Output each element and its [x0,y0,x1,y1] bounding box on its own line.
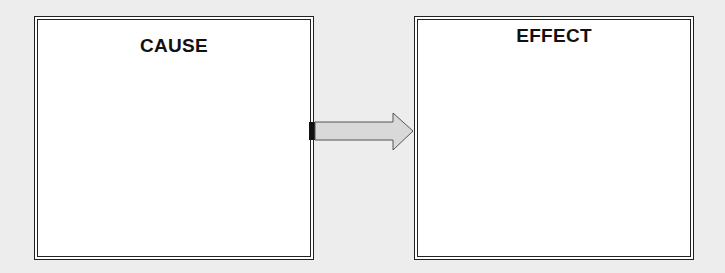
effect-title: EFFECT [418,25,690,47]
effect-box: EFFECT [414,16,694,260]
right-arrow-icon [308,111,416,153]
cause-title: CAUSE [38,35,310,57]
cause-box: CAUSE [34,16,314,260]
